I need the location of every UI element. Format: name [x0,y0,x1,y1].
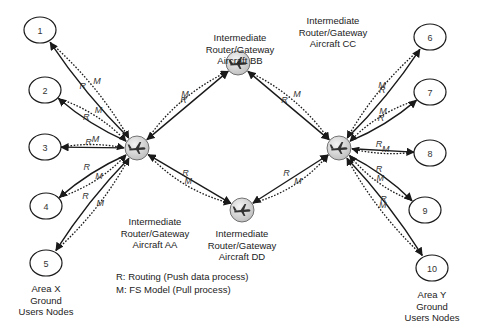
model-edge-label: M [379,106,387,116]
ground-node-7: 7 [414,79,446,105]
area-y-line3: Users Nodes [400,312,464,324]
aircraft-cc-label-line2: Router/Gateway [290,27,376,39]
model-edge-label: M [92,134,100,144]
model-edge-label: M [95,105,103,115]
model-edge-label: M [93,76,101,86]
routing-edge-AA-4 [59,155,126,197]
routing-edge-AA-1 [50,42,129,138]
aircraft-aa-label-line3: Aircraft AA [112,239,198,251]
aircraft-cc-label: Intermediate Router/Gateway Aircraft CC [290,15,376,50]
legend-model: M: FS Model (Pull process) [116,284,249,297]
area-y-line1: Area Y [400,289,464,301]
routing-edge-AA-3 [61,147,124,148]
routing-edge-AA-BB [147,71,228,139]
svg-text:2: 2 [42,86,47,96]
routing-edge-label: R [281,95,288,105]
routing-edge-BB-CC [248,71,329,139]
model-edge-label: M [378,80,386,90]
legend-routing: R: Routing (Push data process) [116,271,249,284]
area-x-line2: Ground [14,295,78,307]
ground-node-3: 3 [29,134,61,160]
ground-node-1: 1 [24,17,56,43]
svg-text:10: 10 [427,264,437,274]
aircraft-dd-label-line1: Intermediate [199,228,285,240]
area-y-line2: Ground [400,301,464,313]
aircraft-aa-label-line1: Intermediate [112,216,198,228]
aircraft-cc-node [327,136,351,160]
area-y-label: Area Y Ground Users Nodes [400,289,464,324]
aircraft-dd-label: Intermediate Router/Gateway Aircraft DD [199,228,285,263]
aircraft-bb-label-line3: Aircraft BB [197,55,283,67]
routing-edge-DD-CC [253,155,328,203]
svg-text:4: 4 [43,202,48,212]
aircraft-bb-label-line2: Router/Gateway [197,44,283,56]
ground-node-10: 10 [416,255,448,281]
aircraft-cc-label-line1: Intermediate [290,15,376,27]
svg-text:6: 6 [427,33,432,43]
legend: R: Routing (Push data process) M: FS Mod… [116,271,249,296]
svg-text:9: 9 [422,206,427,216]
model-edge-label: M [96,198,104,208]
routing-edge-label: R [83,112,90,122]
routing-edge-label: R [79,81,86,91]
aircraft-bb-label-line1: Intermediate [197,32,283,44]
area-x-label: Area X Ground Users Nodes [14,283,78,318]
routing-edge-label: R [82,191,89,201]
aircraft-bb-label: Intermediate Router/Gateway Aircraft BB [197,32,283,67]
area-x-line3: Users Nodes [14,306,78,318]
svg-text:7: 7 [427,88,432,98]
model-edge-label: M [95,171,103,181]
aircraft-dd-label-line2: Router/Gateway [199,240,285,252]
model-edge-label: M [184,176,192,186]
model-edge-label: M [293,89,301,99]
ground-node-2: 2 [29,77,61,103]
routing-edge-label: R [283,168,290,178]
ground-node-6: 6 [414,24,446,50]
ground-node-9: 9 [409,197,441,223]
routing-edge-label: R [84,162,91,172]
svg-text:1: 1 [37,26,42,36]
aircraft-dd-label-line3: Aircraft DD [199,251,285,263]
ground-node-5: 5 [30,250,62,276]
model-edge-label: M [294,176,302,186]
aircraft-dd-node [230,198,254,222]
model-edge-4-AA [59,155,126,197]
svg-text:8: 8 [427,149,432,159]
model-edge-label: M [181,89,189,99]
ground-node-8: 8 [414,140,446,166]
aircraft-aa-node [125,136,149,160]
aircraft-cc-label-line3: Aircraft CC [290,38,376,50]
svg-text:5: 5 [43,259,48,269]
aircraft-aa-label-line2: Router/Gateway [112,228,198,240]
svg-text:3: 3 [42,143,47,153]
model-edge-label: M [377,173,385,183]
ground-node-4: 4 [30,193,62,219]
area-x-line1: Area X [14,283,78,295]
aircraft-aa-label: Intermediate Router/Gateway Aircraft AA [112,216,198,251]
model-edge-label: M [382,144,390,154]
model-edge-1-AA [50,42,129,138]
model-edge-label: M [379,200,387,210]
